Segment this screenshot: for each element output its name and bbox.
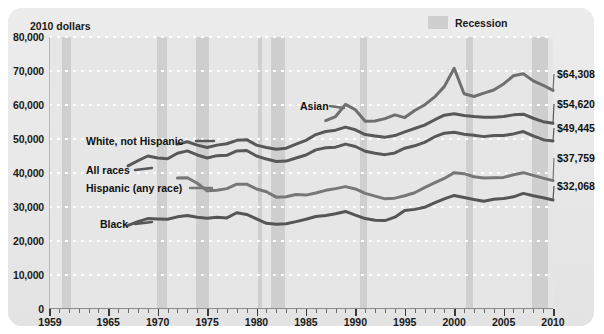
x-axis-tick-label: 1985 [294,316,317,328]
legend: Recession [428,16,508,29]
y-axis-tick-label: 80,000 [13,31,44,43]
x-axis-minor-tick [336,309,337,313]
x-axis-tick-label: 2010 [541,316,564,328]
x-axis-major-tick [454,309,456,316]
y-axis-tick-label: 30,000 [13,201,44,213]
x-axis-minor-tick [177,309,178,313]
x-axis-major-tick [49,309,51,316]
x-axis-major-tick [257,309,259,316]
series-name-label: All races [86,164,130,176]
series-name-label: Asian [300,100,329,112]
chart-root: 2010 dollars Recession 80,00070,00060,00… [0,0,604,334]
x-axis-tick-label: 1959 [38,316,61,328]
x-axis-minor-tick [197,309,198,313]
x-axis-minor-tick [434,309,435,313]
x-axis-minor-tick [296,309,297,313]
x-axis-minor-tick [326,309,327,313]
y-axis-line [49,37,50,309]
series-end-value-label: $32,068 [557,180,595,192]
x-axis-minor-tick [148,309,149,313]
x-axis-minor-tick [375,309,376,313]
x-axis-minor-tick [464,309,465,313]
x-axis-major-tick [108,309,110,316]
series-end-value-label: $49,445 [557,122,595,134]
x-axis-minor-tick [59,309,60,313]
y-axis-tick-label: 50,000 [13,133,44,145]
x-axis-minor-tick [237,309,238,313]
x-axis-minor-tick [128,309,129,313]
x-axis-minor-tick [425,309,426,313]
x-axis-minor-tick [316,309,317,313]
x-axis-tick-label: 2000 [442,316,465,328]
x-axis-minor-tick [98,309,99,313]
y-axis-tick-label: 70,000 [13,65,44,77]
y-axis-tick-label: 10,000 [13,269,44,281]
y-axis-tick-label: 60,000 [13,99,44,111]
x-axis-minor-tick [513,309,514,313]
x-axis-minor-tick [118,309,119,313]
x-axis-major-tick [207,309,209,316]
series-end-value-label: $54,620 [557,98,595,110]
y-axis-tick-labels: 80,00070,00060,00050,00040,00030,00020,0… [0,0,46,334]
x-axis-minor-tick [89,309,90,313]
x-axis-minor-tick [187,309,188,313]
x-axis-minor-tick [247,309,248,313]
x-axis-minor-tick [168,309,169,313]
x-axis-tick-label: 1980 [245,316,268,328]
x-axis-major-tick [504,309,506,316]
x-axis-tick-label: 1995 [393,316,416,328]
x-axis-minor-tick [217,309,218,313]
legend-swatch-recession [428,16,448,29]
x-axis-minor-tick [523,309,524,313]
x-axis-tick-label: 2005 [492,316,515,328]
x-axis-minor-tick [543,309,544,313]
y-axis-tick-label: 0 [38,303,44,315]
x-axis-minor-tick [484,309,485,313]
x-axis-minor-tick [276,309,277,313]
x-axis-minor-tick [415,309,416,313]
x-axis-minor-tick [138,309,139,313]
x-axis-minor-tick [365,309,366,313]
series-name-label: Hispanic (any race) [86,182,182,194]
x-axis-minor-tick [395,309,396,313]
x-axis-minor-tick [266,309,267,313]
y-axis-tick-label: 40,000 [13,167,44,179]
x-axis-minor-tick [227,309,228,313]
x-axis-tick-label: 1975 [195,316,218,328]
series-name-label: White, not Hispanic [86,135,183,147]
series-line [177,173,553,199]
x-axis-minor-tick [79,309,80,313]
series-line [128,193,553,225]
series-line [128,132,553,166]
x-axis-major-tick [306,309,308,316]
x-axis-minor-tick [69,309,70,313]
x-axis-minor-tick [474,309,475,313]
x-axis-minor-tick [494,309,495,313]
x-axis-minor-tick [385,309,386,313]
x-axis-major-tick [405,309,407,316]
x-axis-minor-tick [345,309,346,313]
series-end-value-label: $64,308 [557,68,595,80]
x-axis-tick-label: 1990 [344,316,367,328]
legend-label-recession: Recession [455,17,508,29]
series-end-value-label: $37,759 [557,152,595,164]
series-name-label: Black [100,218,128,230]
x-axis-minor-tick [286,309,287,313]
x-axis-major-tick [355,309,357,316]
x-axis-tick-label: 1970 [146,316,169,328]
x-axis-major-tick [158,309,160,316]
x-axis-tick-label: 1965 [97,316,120,328]
x-axis-line [49,308,553,309]
x-axis-minor-tick [533,309,534,313]
y-axis-tick-label: 20,000 [13,235,44,247]
x-axis-major-tick [553,309,555,316]
x-axis-minor-tick [444,309,445,313]
